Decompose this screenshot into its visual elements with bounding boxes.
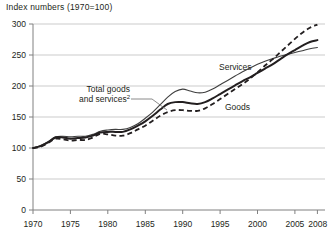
y-axis-labels: 300 250 200 150 100 50 0 bbox=[12, 19, 26, 215]
x-tick-label-1985: 1985 bbox=[136, 219, 155, 229]
x-tick-marks bbox=[33, 210, 317, 214]
x-tick-label-2008: 2008 bbox=[308, 219, 327, 229]
x-tick-label-1980: 1980 bbox=[98, 219, 117, 229]
x-tick-label-1995: 1995 bbox=[211, 219, 230, 229]
y-tick-label-100: 100 bbox=[12, 143, 26, 153]
x-tick-label-1990: 1990 bbox=[173, 219, 192, 229]
annotation-total-line1: Total goods bbox=[87, 84, 130, 94]
y-tick-label-150: 150 bbox=[12, 112, 26, 122]
x-axis-labels: 1970 1975 1980 1985 1990 1995 2000 2005 … bbox=[24, 219, 328, 229]
x-tick-label-1975: 1975 bbox=[61, 219, 80, 229]
y-tick-label-50: 50 bbox=[17, 174, 27, 184]
x-tick-label-2000: 2000 bbox=[248, 219, 267, 229]
y-tick-label-300: 300 bbox=[12, 19, 26, 29]
annotation-total-line2: and services2 bbox=[79, 94, 131, 105]
line-chart-plot: 300 250 200 150 100 50 0 1970 1975 1980 … bbox=[0, 0, 334, 243]
y-tick-label-200: 200 bbox=[12, 81, 26, 91]
series-line-total-goods-and-services bbox=[33, 40, 317, 148]
y-tick-label-250: 250 bbox=[12, 50, 26, 60]
annotation-total-footnote: 2 bbox=[127, 94, 131, 100]
annotation-total-line2-text: and services bbox=[79, 94, 127, 104]
y-tick-label-0: 0 bbox=[21, 205, 26, 215]
chart-figure: Index numbers (1970=100) bbox=[0, 0, 334, 243]
x-tick-label-1970: 1970 bbox=[24, 219, 43, 229]
x-tick-label-2005: 2005 bbox=[285, 219, 304, 229]
annotation-services: Services bbox=[219, 62, 252, 72]
y-tick-marks bbox=[29, 24, 33, 210]
annotation-goods: Goods bbox=[225, 102, 250, 112]
